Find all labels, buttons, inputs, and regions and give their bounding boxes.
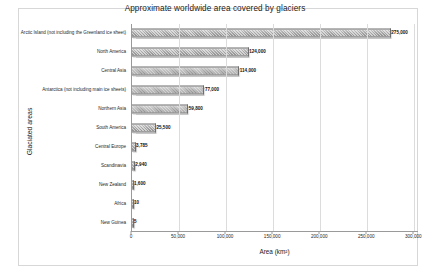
bar-group: 10 (132, 199, 134, 208)
bar-group: 275,000 (132, 29, 391, 38)
bar-group: 25,500 (132, 124, 156, 133)
x-tick-label: 0 (130, 234, 133, 239)
bar: 77,000 (132, 86, 204, 95)
bar: 3,785 (132, 142, 136, 151)
bar-value-label: 114,000 (240, 69, 256, 74)
category-label: Northern Asia (98, 107, 126, 112)
category-label: Central Europe (95, 145, 126, 150)
category-label: New Zealand (99, 182, 126, 187)
bar-value-label: 1,600 (134, 182, 146, 187)
category-label: South America (96, 126, 126, 131)
x-tick-label: 100,000 (217, 234, 234, 239)
gridline-150000 (273, 24, 274, 231)
bar-group: 2,940 (132, 161, 135, 170)
x-tick-label: 50,000 (171, 234, 185, 239)
bar: 1,600 (132, 180, 134, 189)
bar-value-label: 5 (134, 220, 137, 225)
x-tick-label: 150,000 (264, 234, 281, 239)
category-label: Central Asia (101, 69, 126, 74)
gridline-50000 (179, 24, 180, 231)
x-tick-label: 250,000 (358, 234, 375, 239)
chart-title: Approximate worldwide area covered by gl… (0, 4, 430, 13)
bar-value-label: 10 (134, 201, 139, 206)
bar-group: 124,000 (132, 48, 249, 57)
bar-group: 114,000 (132, 67, 239, 76)
bar: 10 (132, 199, 134, 208)
gridline-100000 (226, 24, 227, 231)
glacier-area-bar-chart: Approximate worldwide area covered by gl… (0, 0, 430, 273)
bar-value-label: 77,000 (205, 88, 219, 93)
bar-group: 3,785 (132, 142, 136, 151)
bar-value-label: 275,000 (391, 31, 408, 36)
category-label: New Guinea (101, 220, 126, 225)
x-axis-tick-labels: 050,000100,000150,000200,000250,000300,0… (131, 234, 418, 246)
bar: 275,000 (132, 29, 391, 38)
bar-group: 77,000 (132, 86, 204, 95)
bar-layer: 275,000124,000114,00077,00059,80025,5003… (132, 24, 418, 231)
gridline-300000 (414, 24, 415, 231)
category-label: Scandinavia (101, 164, 126, 169)
bar: 2,940 (132, 161, 135, 170)
gridline-200000 (320, 24, 321, 231)
bar-value-label: 25,500 (156, 126, 170, 131)
bar-value-label: 59,800 (189, 107, 203, 112)
bar-group: 1,600 (132, 180, 134, 189)
bar: 124,000 (132, 48, 249, 57)
bar: 25,500 (132, 124, 156, 133)
category-label: Antarctica (not including main ice sheet… (42, 88, 126, 93)
category-label: North America (97, 50, 126, 55)
category-label: Africa (114, 201, 126, 206)
bar: 114,000 (132, 67, 239, 76)
x-tick-label: 300,000 (405, 234, 422, 239)
category-label: Arctic Island (not including the Greenla… (21, 31, 126, 36)
plot-area: 275,000124,000114,00077,00059,80025,5003… (131, 24, 418, 232)
bar-group: 5 (132, 218, 134, 227)
bar-value-label: 2,940 (135, 164, 147, 169)
bar-value-label: 124,000 (249, 50, 266, 55)
x-tick-label: 200,000 (311, 234, 328, 239)
y-axis-category-labels: Arctic Island (not including the Greenla… (20, 24, 129, 232)
bar: 5 (132, 218, 134, 227)
gridline-250000 (367, 24, 368, 231)
x-axis-title: Area (km²) (131, 248, 418, 255)
bar-value-label: 3,785 (136, 145, 148, 150)
